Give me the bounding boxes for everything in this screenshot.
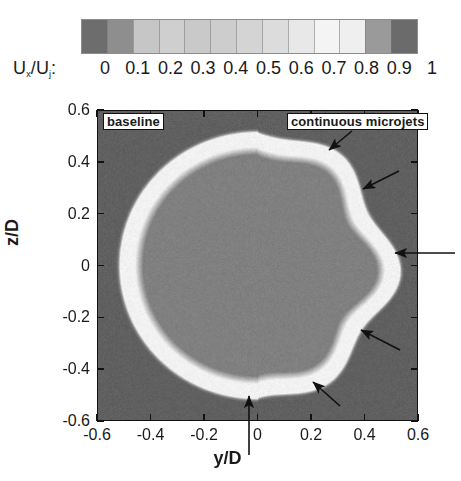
y-tick-right-0 <box>411 265 418 267</box>
y-tick-label-0p2: 0.2 <box>68 205 90 223</box>
y-tick-label-0p4: 0.4 <box>68 153 90 171</box>
colorbar-swatch-3 <box>159 20 185 53</box>
colorbar-tick-0p9: 0.9 <box>387 58 412 79</box>
colorbar-title: Ux/Uj: <box>13 58 56 79</box>
y-tick-left-0p4 <box>97 161 104 163</box>
y-axis-title: z/D <box>2 219 23 246</box>
y-tick-right-0p6 <box>411 109 418 111</box>
x-axis-title: y/D <box>0 448 461 469</box>
x-tick-label-0p2: 0.2 <box>300 426 322 444</box>
x-tick-bottom-neg0p2 <box>203 414 205 421</box>
x-axis-title-text: y/D <box>213 448 241 468</box>
colorbar-title-sub-x: x <box>26 69 31 79</box>
figure-container: Ux/Uj: 00.10.20.30.40.50.60.70.80.91 0.6… <box>0 0 461 481</box>
y-tick-left-neg0p6 <box>97 420 104 422</box>
x-tick-bottom-0p4 <box>364 414 366 421</box>
y-tick-left-0 <box>97 265 104 267</box>
colorbar-swatch-8 <box>288 20 314 53</box>
colorbar-tick-labels: 00.10.20.30.40.50.60.70.80.91 <box>81 58 433 82</box>
colorbar-title-colon: : <box>51 58 56 78</box>
x-tick-label-0p4: 0.4 <box>353 426 375 444</box>
y-tick-left-neg0p4 <box>97 368 104 370</box>
colorbar-swatch-2 <box>133 20 159 53</box>
x-tick-label-0p6: 0.6 <box>407 426 429 444</box>
colorbar-swatch-11 <box>365 20 391 53</box>
x-tick-label-neg0p2: -0.2 <box>190 426 218 444</box>
y-tick-label-0p6: 0.6 <box>68 101 90 119</box>
contour-image <box>98 111 417 420</box>
colorbar-swatch-10 <box>339 20 365 53</box>
microjets-callout-label: continuous microjets <box>287 113 428 130</box>
x-tick-bottom-0p2 <box>310 414 312 421</box>
colorbar-tick-1: 1 <box>427 58 437 79</box>
colorbar-label-row: Ux/Uj: 00.10.20.30.40.50.60.70.80.91 <box>0 57 461 83</box>
colorbar-swatch-0 <box>82 20 107 53</box>
colorbar-tick-0p3: 0.3 <box>191 58 216 79</box>
colorbar-title-main: U <box>13 58 26 78</box>
colorbar-swatch-4 <box>184 20 210 53</box>
colorbar-tick-0p6: 0.6 <box>289 58 314 79</box>
colorbar-swatch-7 <box>262 20 288 53</box>
colorbar-title-mid: /U <box>31 58 49 78</box>
colorbar-tick-0: 0 <box>100 58 110 79</box>
x-axis-tick-labels: -0.6-0.4-0.200.20.40.6 <box>97 426 418 448</box>
y-tick-right-neg0p4 <box>411 368 418 370</box>
colorbar-tick-0p5: 0.5 <box>256 58 281 79</box>
colorbar-swatch-5 <box>210 20 236 53</box>
baseline-callout-label: baseline <box>103 113 164 130</box>
colorbar-tick-0p7: 0.7 <box>321 58 346 79</box>
colorbar-swatch-9 <box>314 20 340 53</box>
y-tick-right-0p4 <box>411 161 418 163</box>
colorbar-tick-0p8: 0.8 <box>354 58 379 79</box>
colorbar-title-sub-j: j <box>49 69 51 79</box>
y-axis-tick-labels: 0.60.40.20-0.2-0.4-0.6 <box>24 110 90 421</box>
colorbar-swatch-12 <box>391 20 417 53</box>
y-tick-right-0p2 <box>411 213 418 215</box>
colorbar-tick-0p4: 0.4 <box>223 58 248 79</box>
colorbar-tick-0p1: 0.1 <box>125 58 150 79</box>
y-tick-label-neg0p2: -0.2 <box>62 308 90 326</box>
colorbar-container <box>81 19 418 54</box>
x-tick-label-neg0p4: -0.4 <box>137 426 165 444</box>
y-tick-label-neg0p4: -0.4 <box>62 360 90 378</box>
y-tick-right-neg0p2 <box>411 317 418 319</box>
x-tick-top-neg0p6 <box>96 110 98 117</box>
y-tick-left-0p6 <box>97 109 104 111</box>
x-tick-top-neg0p2 <box>203 110 205 117</box>
x-tick-label-0: 0 <box>253 426 262 444</box>
y-tick-right-neg0p6 <box>411 420 418 422</box>
colorbar-swatch-6 <box>236 20 262 53</box>
y-tick-left-0p2 <box>97 213 104 215</box>
x-tick-top-0 <box>257 110 259 117</box>
colorbar-swatch-1 <box>107 20 133 53</box>
plot-area <box>97 110 418 421</box>
x-tick-bottom-0 <box>257 414 259 421</box>
y-tick-label-0: 0 <box>81 257 90 275</box>
x-tick-label-neg0p6: -0.6 <box>83 426 111 444</box>
colorbar-gradient <box>81 19 418 54</box>
y-tick-left-neg0p2 <box>97 317 104 319</box>
colorbar-tick-0p2: 0.2 <box>158 58 183 79</box>
x-tick-bottom-neg0p4 <box>150 414 152 421</box>
